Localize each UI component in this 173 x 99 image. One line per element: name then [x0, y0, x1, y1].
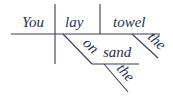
prep-object-word: sand [103, 44, 132, 60]
preposition-word: on [80, 35, 102, 57]
sentence-diagram: You lay towel sand on the the [0, 0, 173, 99]
verb-word: lay [65, 14, 84, 30]
object-word: towel [113, 14, 146, 30]
subject-word: You [22, 14, 44, 30]
